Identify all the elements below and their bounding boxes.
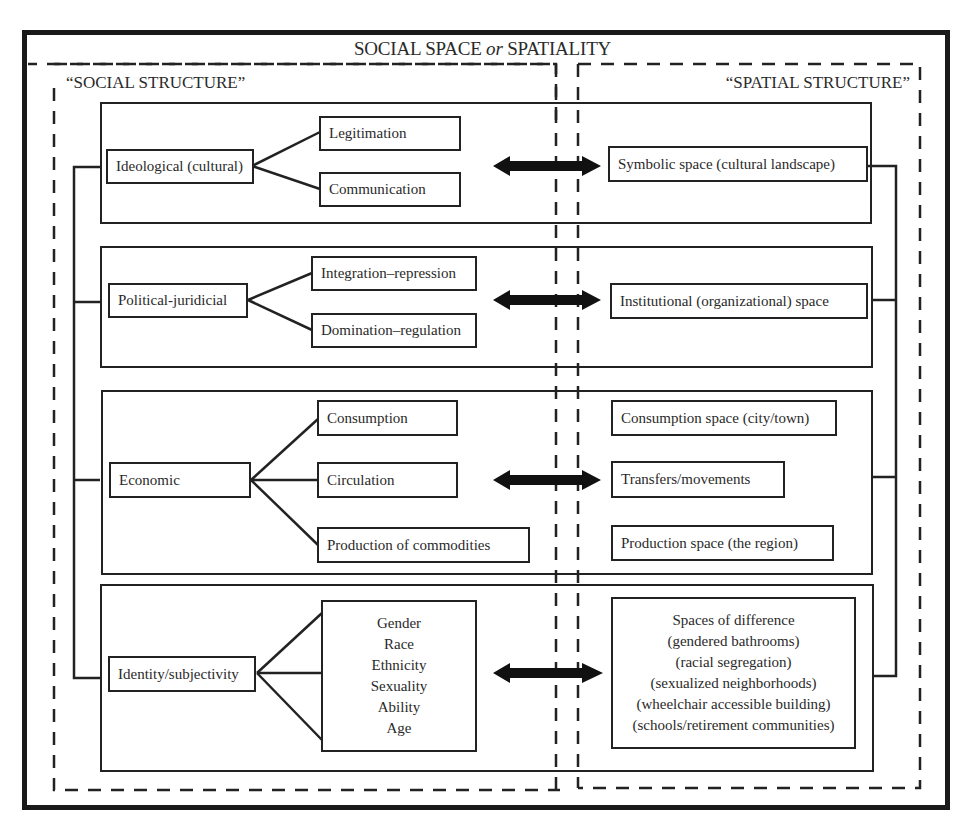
sub-box-circulation: Circulation [317,462,458,498]
identity-category: Race [384,634,414,655]
identity-category: Sexuality [371,676,428,697]
social-box-political-juridicial: Political-juridicial [108,283,248,318]
spaces-of-difference-line: (racial segregation) [675,652,791,673]
sub-box-communication: Communication [319,172,461,207]
social-box-identity-subjectivity: Identity/subjectivity [108,656,256,692]
identity-category: Age [387,718,412,739]
identity-category: Ability [378,697,421,718]
sub-box-production-of-commodities: Production of commodities [317,527,530,563]
spatial-box-symbolic-space: Symbolic space (cultural landscape) [608,146,868,182]
social-box-ideological: Ideological (cultural) [106,149,254,184]
spatial-box-transfers-movements: Transfers/movements [611,461,785,498]
spaces-of-difference-line: (wheelchair accessible building) [636,694,830,715]
identity-category: Ethnicity [372,655,427,676]
identity-category: Gender [377,613,421,634]
sub-box-identity-categories: Gender Race Ethnicity Sexuality Ability … [321,600,477,752]
spaces-of-difference-line: (gendered bathrooms) [667,631,799,652]
sub-box-legitimation: Legitimation [319,116,461,151]
social-box-economic: Economic [109,462,251,498]
spaces-of-difference-line: Spaces of difference [672,610,794,631]
spaces-of-difference-line: (schools/retirement communities) [632,715,834,736]
spaces-of-difference-line: (sexualized neighborhoods) [650,673,816,694]
sub-box-consumption: Consumption [317,400,458,436]
left-spine [74,167,100,678]
sub-box-domination-regulation: Domination–regulation [311,313,477,348]
spatial-box-consumption-space: Consumption space (city/town) [611,400,837,436]
sub-box-integration-repression: Integration–repression [311,256,477,291]
spatial-box-institutional-space: Institutional (organizational) space [610,283,868,319]
spatial-box-spaces-of-difference: Spaces of difference (gendered bathrooms… [611,597,856,749]
spatial-box-production-space: Production space (the region) [611,525,834,561]
